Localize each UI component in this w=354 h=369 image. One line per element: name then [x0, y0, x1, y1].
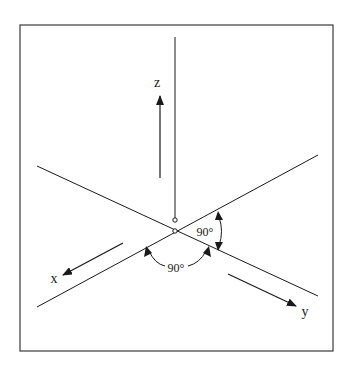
coordinate-diagram: z x y 90° 90°: [0, 0, 354, 369]
x-direction-arrow-icon: [63, 243, 123, 275]
z-axis-label: z: [154, 75, 160, 90]
bottom-angle-label: 90°: [168, 261, 185, 275]
z-axis-end-circle: [173, 218, 177, 222]
right-angle-label: 90°: [197, 225, 214, 239]
y-direction-arrow-icon: [228, 274, 296, 306]
right-angle-arc-icon: [219, 217, 222, 246]
bottom-arc-right-arrowhead-icon: [203, 246, 211, 257]
right-arc-top-arrowhead-icon: [215, 211, 223, 220]
frame-border: [20, 25, 333, 351]
y-axis-label: y: [302, 304, 309, 319]
origin-circle: [173, 229, 177, 233]
x-axis-label: x: [51, 271, 58, 286]
